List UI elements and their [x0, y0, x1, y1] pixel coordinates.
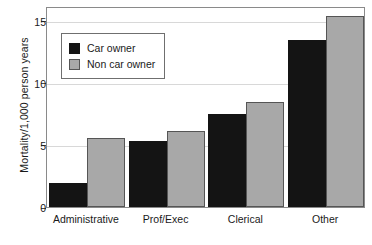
x-tick-label: Administrative — [46, 213, 126, 225]
y-tick-label-wrap: 10 — [0, 79, 46, 89]
legend-item: Car owner — [69, 40, 155, 56]
legend-item-label: Non car owner — [87, 58, 155, 70]
bar — [246, 102, 284, 207]
legend-item-label: Car owner — [87, 42, 135, 54]
chart-legend: Car ownerNon car owner — [61, 33, 165, 79]
bar — [326, 16, 364, 207]
y-tick-label: 0 — [20, 203, 46, 213]
y-axis-title: Mortality/1,000 person years — [16, 0, 32, 210]
x-tick-label: Other — [285, 213, 365, 225]
y-tick-label-wrap: 15 — [0, 17, 46, 27]
y-tick-label-wrap: 0 — [0, 203, 46, 213]
x-tick-label: Clerical — [206, 213, 286, 225]
y-tick-label: 10 — [20, 79, 46, 89]
bar-chart-screenshot: Mortality/1,000 person years Car ownerNo… — [0, 0, 372, 245]
legend-item: Non car owner — [69, 56, 155, 72]
bar — [129, 141, 167, 207]
y-tick-label-wrap: 5 — [0, 141, 46, 151]
bar — [49, 183, 87, 207]
bar — [167, 131, 205, 207]
gridline — [47, 22, 364, 23]
black-square-swatch — [69, 43, 80, 54]
bar — [288, 40, 326, 208]
x-tick-label: Prof/Exec — [126, 213, 206, 225]
gray-square-swatch — [69, 59, 80, 70]
bar — [87, 138, 125, 207]
bar — [208, 114, 246, 207]
y-tick-label: 5 — [20, 141, 46, 151]
y-tick-label: 15 — [20, 17, 46, 27]
